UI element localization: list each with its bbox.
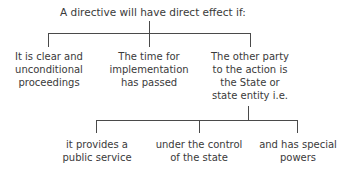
- criterion-1-line-2: public service: [56, 151, 138, 164]
- connector-drop-3: [250, 33, 251, 47]
- condition-1-line-3: proceedings: [8, 76, 90, 89]
- connector-sub-drop-2: [199, 120, 200, 133]
- connector-bottom-bar: [96, 120, 298, 121]
- criterion-node-public-service: it provides a public service: [56, 138, 138, 164]
- connector-state-stem: [248, 106, 249, 120]
- criterion-node-state-control: under the control of the state: [152, 138, 246, 164]
- condition-3-line-3: the State or: [204, 76, 296, 89]
- connector-drop-1: [48, 33, 49, 47]
- condition-2-line-2: implementation: [108, 63, 190, 76]
- condition-2-line-1: The time for: [108, 50, 190, 63]
- criterion-3-line-2: powers: [254, 151, 342, 164]
- condition-3-line-1: The other party: [204, 50, 296, 63]
- condition-2-line-3: has passed: [108, 76, 190, 89]
- condition-node-clear-unconditional: It is clear and unconditional proceeding…: [8, 50, 90, 89]
- connector-sub-drop-1: [96, 120, 97, 133]
- connector-top-bar: [48, 33, 251, 34]
- condition-node-time-passed: The time for implementation has passed: [108, 50, 190, 89]
- root-node: A directive will have direct effect if:: [60, 6, 240, 19]
- criterion-2-line-2: of the state: [152, 151, 246, 164]
- condition-1-line-1: It is clear and: [8, 50, 90, 63]
- criterion-1-line-1: it provides a: [56, 138, 138, 151]
- criterion-node-special-powers: and has special powers: [254, 138, 342, 164]
- condition-node-state-party: The other party to the action is the Sta…: [204, 50, 296, 102]
- criterion-3-line-1: and has special: [254, 138, 342, 151]
- condition-3-line-2: to the action is: [204, 63, 296, 76]
- connector-root-stem: [149, 21, 150, 47]
- connector-sub-drop-3: [297, 120, 298, 133]
- condition-1-line-2: unconditional: [8, 63, 90, 76]
- condition-3-line-4: state entity i.e.: [204, 89, 296, 102]
- criterion-2-line-1: under the control: [152, 138, 246, 151]
